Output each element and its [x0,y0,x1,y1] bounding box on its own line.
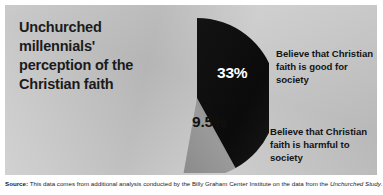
source-note: Source: This data comes from additional … [5,180,379,188]
pie-chart-svg [129,10,269,173]
legend-label-good: Believe that Christian faith is good for… [276,48,377,87]
chart-panel: Unchurched millennials' perception of th… [5,5,377,175]
pie-value-good: 33% [217,64,247,82]
source-suffix: . [381,180,383,187]
pie-chart: 33% 9.5% [129,10,269,173]
page-title: Unchurched millennials' perception of th… [19,18,147,93]
pie-value-harmful: 9.5% [192,113,227,131]
legend-label-harmful: Believe that Christian faith is harmful … [270,126,377,165]
source-study-title: Unchurched Study [330,180,381,187]
source-body: This data comes from additional analysis… [30,180,329,187]
source-prefix: Source: [5,180,28,187]
